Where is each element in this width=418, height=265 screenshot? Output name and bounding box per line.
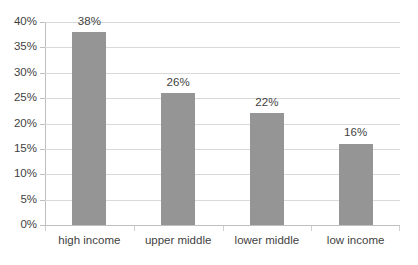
- y-axis-tick-label: 10%: [0, 168, 37, 180]
- y-axis-tick-label: 25%: [0, 92, 37, 104]
- x-axis-category-label: high income: [45, 234, 134, 247]
- x-axis-category-label: low income: [311, 234, 400, 247]
- bar[interactable]: [72, 32, 106, 225]
- bar-value-label: 38%: [78, 16, 101, 28]
- x-axis-tick-mark: [311, 226, 312, 231]
- bar-slot: 26%: [134, 22, 223, 225]
- bar[interactable]: [250, 113, 284, 225]
- bar-slot: 16%: [311, 22, 400, 225]
- x-axis: high incomeupper middlelower middlelow i…: [45, 226, 400, 256]
- y-axis-tick-label: 15%: [0, 143, 37, 155]
- x-axis-category-label: lower middle: [223, 234, 312, 247]
- y-axis-tick-label: 40%: [0, 16, 37, 28]
- plot-area: 38%26%22%16%: [45, 22, 400, 225]
- bar-chart: 0%5%10%15%20%25%30%35%40% 38%26%22%16% h…: [0, 0, 418, 265]
- bar[interactable]: [161, 93, 195, 225]
- x-axis-tick-mark: [134, 226, 135, 231]
- y-axis-tick-label: 20%: [0, 118, 37, 130]
- y-axis-tick-label: 35%: [0, 41, 37, 53]
- bar-slot: 22%: [223, 22, 312, 225]
- bar-slot: 38%: [45, 22, 134, 225]
- x-axis-tick-mark: [399, 226, 400, 231]
- x-axis-tick-mark: [223, 226, 224, 231]
- bar-value-label: 26%: [167, 77, 190, 89]
- y-axis-tick-label: 30%: [0, 67, 37, 79]
- bar-value-label: 22%: [255, 97, 278, 109]
- bar-value-label: 16%: [344, 127, 367, 139]
- y-axis-tick-label: 0%: [0, 219, 37, 231]
- x-axis-category-label: upper middle: [134, 234, 223, 247]
- bar[interactable]: [339, 144, 373, 225]
- y-axis-tick-label: 5%: [0, 194, 37, 206]
- x-axis-tick-mark: [45, 226, 46, 231]
